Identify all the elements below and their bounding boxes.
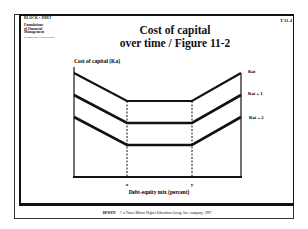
series-kat1-line xyxy=(74,95,241,123)
copyright-text: © a Times Mirror Higher Education Group,… xyxy=(120,211,212,215)
series-kat2-line xyxy=(74,117,241,145)
x-axis-label: Debt-equity mix (percent) xyxy=(129,189,190,196)
footer: IRWIN © a Times Mirror Higher Education … xyxy=(20,207,294,218)
publisher-logo: IRWIN xyxy=(102,210,115,215)
cost-of-capital-chart: Cost of capital (Ka) Kat Kat + 1 Kat + 2… xyxy=(0,0,308,229)
series-kat-line xyxy=(74,73,241,101)
series-kat1-label: Kat + 1 xyxy=(248,91,263,96)
series-kat2-label: Kat + 2 xyxy=(249,115,264,120)
y-axis-label: Cost of capital (Ka) xyxy=(74,58,120,65)
x-tick-x: x xyxy=(126,182,129,187)
slide: BLOCK • HIRT Foundations of Financial Ma… xyxy=(0,0,308,229)
x-tick-y: y xyxy=(191,182,194,187)
series-kat-label: Kat xyxy=(248,69,256,74)
